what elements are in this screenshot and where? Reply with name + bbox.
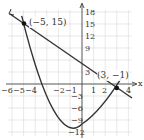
svg-text:1: 1	[91, 86, 96, 95]
svg-text:−5: −5	[13, 86, 25, 95]
svg-text:−3: −3	[71, 92, 83, 101]
point-marker	[115, 86, 120, 91]
svg-text:2: 2	[102, 86, 107, 95]
svg-text:−12: −12	[68, 128, 85, 137]
svg-text:x: x	[138, 79, 143, 88]
svg-text:−6: −6	[1, 86, 13, 95]
svg-text:12: 12	[85, 32, 95, 41]
svg-text:−9: −9	[71, 116, 83, 125]
point-label: (−5, 15)	[29, 17, 66, 27]
svg-text:−6: −6	[71, 104, 83, 113]
svg-text:15: 15	[85, 20, 95, 29]
chart-canvas: −6 −5 −4 −2 −1 1 2 4 x 18 15 12 9 3 −3 −…	[0, 0, 144, 140]
point-marker	[22, 21, 27, 26]
svg-text:−4: −4	[25, 86, 37, 95]
svg-text:−2: −2	[53, 86, 65, 95]
point-label: (3, −1)	[97, 70, 129, 80]
svg-text:18: 18	[85, 8, 95, 17]
svg-text:9: 9	[85, 44, 90, 53]
